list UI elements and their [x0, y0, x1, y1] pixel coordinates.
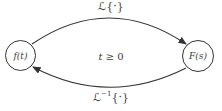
inverse-label-argument: {·} [111, 91, 129, 104]
laplace-transform-diagram: f(t) F(s) ℒ{·} t ≥ 0 ℒ−1{·} [0, 0, 222, 111]
forward-arrow [32, 18, 186, 44]
forward-transform-label: ℒ{·} [0, 0, 222, 13]
inverse-transform-label: ℒ−1{·} [0, 91, 222, 104]
condition-relation: ≥ 0 [102, 51, 123, 62]
inverse-label-exponent: −1 [101, 90, 111, 98]
inverse-label-base: ℒ [93, 91, 101, 104]
condition-label: t ≥ 0 [0, 51, 222, 62]
inverse-arrow [33, 67, 186, 87]
